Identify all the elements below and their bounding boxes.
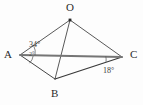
vertex-label-C: C: [130, 49, 137, 60]
geometry-diagram: [0, 0, 143, 105]
angle-label-at-c: 18°: [103, 67, 114, 75]
angle-label-at-a-lower: 2°: [29, 51, 34, 57]
geometry-figure: O A B C 34° 2° 18°: [0, 0, 143, 105]
vertex-label-B: B: [51, 88, 58, 99]
paper-texture: [0, 0, 143, 105]
vertex-label-A: A: [4, 49, 12, 60]
angle-label-at-a-upper: 34°: [29, 41, 40, 49]
vertex-label-O: O: [66, 2, 74, 13]
